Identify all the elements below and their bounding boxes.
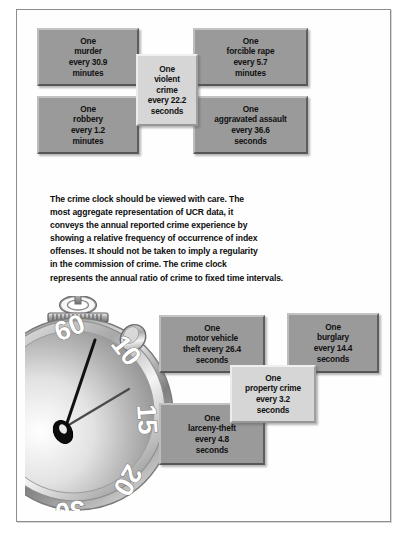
callout-box-aggravated-assault: Oneaggravated assaultevery 36.6seconds xyxy=(193,96,308,154)
figure-frame: Onemurderevery 30.9minutes Oneforcible r… xyxy=(16,9,391,522)
note-line: represents the annual ratio of crime to … xyxy=(50,272,390,285)
note-line: The crime clock should be viewed with ca… xyxy=(50,193,390,206)
note-line: most aggregate representation of UCR dat… xyxy=(50,206,390,219)
callout-box-violent-crime: Oneviolentcrimeevery 22.2seconds xyxy=(136,54,198,126)
callout-text-aggravated-assault: Oneaggravated assaultevery 36.6seconds xyxy=(195,104,306,146)
callout-text-forcible-rape: Oneforcible rapeevery 5.7minutes xyxy=(195,36,306,78)
note-line: offenses. It should not be taken to impl… xyxy=(50,245,390,258)
callout-text-motor-vehicle-theft: Onemotor vehicletheft every 26.4seconds xyxy=(161,323,263,365)
callout-text-robbery: Onerobberyevery 1.2minutes xyxy=(39,104,137,146)
callout-box-murder: Onemurderevery 30.9minutes xyxy=(37,28,139,86)
note-line: showing a relative frequency of occurren… xyxy=(50,232,390,245)
callout-text-murder: Onemurderevery 30.9minutes xyxy=(39,36,137,78)
callout-box-forcible-rape: Oneforcible rapeevery 5.7minutes xyxy=(193,28,308,86)
crime-clock-figure: Onemurderevery 30.9minutes Oneforcible r… xyxy=(0,0,405,535)
callout-text-property-crime: Oneproperty crimeevery 3.2seconds xyxy=(232,373,314,415)
note-line: conveys the annual reported crime experi… xyxy=(50,219,390,232)
note-line: in the commission of crime. The crime cl… xyxy=(50,258,390,271)
callout-text-burglary: Oneburglaryevery 14.4seconds xyxy=(289,322,377,364)
callout-text-violent-crime: Oneviolentcrimeevery 22.2seconds xyxy=(138,64,196,117)
callout-box-burglary: Oneburglaryevery 14.4seconds xyxy=(287,313,379,373)
callout-box-property-crime: Oneproperty crimeevery 3.2seconds xyxy=(230,365,316,423)
explanatory-note: The crime clock should be viewed with ca… xyxy=(50,193,390,285)
callout-box-robbery: Onerobberyevery 1.2minutes xyxy=(37,96,139,154)
